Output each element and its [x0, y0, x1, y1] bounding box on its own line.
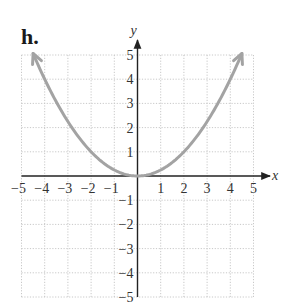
- y-tick-label: −1: [119, 193, 134, 208]
- y-tick-label: 5: [127, 48, 134, 63]
- axes: [22, 40, 271, 297]
- x-tick-label: 3: [204, 181, 211, 196]
- y-tick-label: 2: [127, 121, 134, 136]
- x-tick-label: 1: [157, 181, 164, 196]
- y-tick-label: 4: [127, 72, 134, 87]
- x-tick-label: −5: [11, 181, 26, 196]
- y-tick-label: −3: [119, 242, 134, 257]
- x-tick-label: 5: [250, 181, 257, 196]
- y-tick-label: −2: [119, 217, 134, 232]
- x-axis-label: x: [271, 168, 279, 183]
- y-axis-label: y: [129, 23, 138, 38]
- y-tick-label: 3: [127, 96, 134, 111]
- y-tick-label: 1: [127, 145, 134, 160]
- x-tick-label: −2: [81, 181, 96, 196]
- x-tick-label: 2: [180, 181, 187, 196]
- y-tick-label: −5: [119, 290, 134, 305]
- x-tick-label: 4: [227, 181, 234, 196]
- y-tick-label: −4: [119, 266, 134, 281]
- parabola-graph: −5−4−3−2−112345−5−4−3−2−112345 h. y x: [0, 0, 282, 308]
- x-tick-label: −4: [34, 181, 49, 196]
- part-label: h.: [21, 24, 39, 49]
- x-tick-label: −3: [57, 181, 72, 196]
- x-tick-label: −1: [104, 181, 119, 196]
